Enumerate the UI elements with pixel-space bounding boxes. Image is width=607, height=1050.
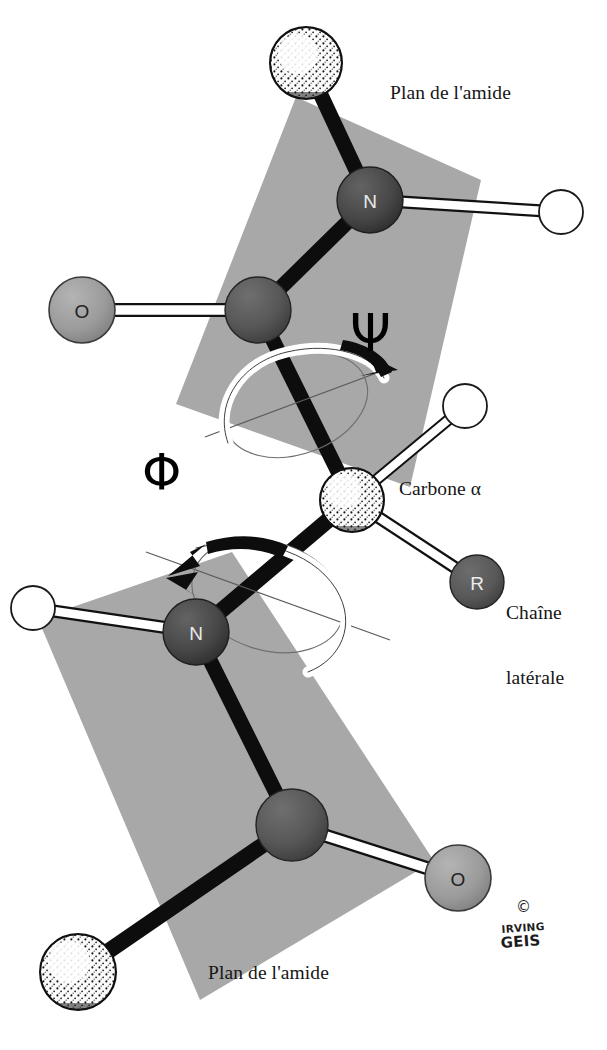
atom-alpha-carbon-center bbox=[320, 468, 384, 547]
atom-nitrogen-top: N bbox=[337, 167, 403, 233]
label-psi-symbol: Ψ bbox=[350, 303, 391, 363]
atom-oxygen-top: O bbox=[49, 277, 115, 343]
label-amide-plane-top: Plan de l'amide bbox=[390, 82, 511, 104]
label-side-chain: Chaîne latérale bbox=[506, 558, 564, 733]
copyright-icon: © bbox=[516, 898, 531, 916]
label-side-chain-line2: latérale bbox=[506, 667, 564, 689]
atom-label-n-bottom: N bbox=[189, 623, 203, 644]
atom-carbonyl-carbon-top bbox=[225, 277, 291, 343]
atom-hydrogen-bottom bbox=[11, 586, 55, 630]
atom-oxygen-bottom: O bbox=[425, 845, 491, 911]
atom-label-n-top: N bbox=[363, 191, 377, 212]
molecular-diagram: N O bbox=[0, 0, 607, 1050]
atom-label-o-bottom: O bbox=[451, 869, 466, 890]
atom-side-chain-r: R bbox=[450, 555, 504, 609]
signature-line2: GEIS bbox=[500, 931, 541, 952]
label-side-chain-line1: Chaîne bbox=[506, 602, 564, 624]
figure-canvas: N O bbox=[0, 0, 607, 1050]
atom-alpha-carbon-bottom bbox=[40, 934, 116, 1029]
atom-hydrogen-center bbox=[443, 384, 487, 428]
atom-carbonyl-carbon-bottom bbox=[256, 789, 328, 861]
atom-label-o-top: O bbox=[75, 301, 90, 322]
atom-label-r: R bbox=[470, 573, 484, 594]
atom-hydrogen-top bbox=[539, 190, 583, 234]
atom-nitrogen-bottom: N bbox=[163, 599, 229, 665]
label-amide-plane-bottom: Plan de l'amide bbox=[208, 962, 329, 984]
label-phi-symbol: Φ bbox=[142, 443, 181, 501]
label-alpha-carbon: Carbone α bbox=[399, 478, 481, 500]
